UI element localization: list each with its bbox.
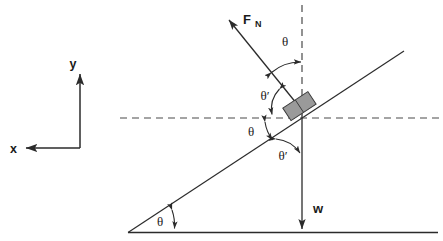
inclined-plane-surface — [128, 51, 404, 233]
angle-label-normal-horizontal: θ′ — [260, 88, 269, 103]
angle-arc-normal-horizontal — [271, 89, 279, 115]
normal-force-label: F — [243, 12, 251, 27]
angle-label-incline-ground: θ — [157, 214, 163, 229]
angle-label-incline-horizontal: θ — [248, 124, 254, 139]
angle-label-normal-vertical: θ — [282, 34, 288, 49]
normal-force-subscript: N — [255, 19, 262, 29]
angle-label-incline-weight: θ′ — [278, 148, 287, 163]
weight-label: w — [312, 201, 324, 216]
y-axis-label: y — [70, 57, 77, 71]
angle-arc-normal-vertical — [272, 62, 302, 73]
angle-arc-incline-ground — [172, 210, 175, 229]
angle-arc-incline-horizontal — [265, 122, 273, 140]
physics-diagram-canvas: y x F N w θ θ′ θ θ′ θ — [0, 0, 443, 241]
coordinate-axes — [26, 74, 80, 148]
block-on-incline — [283, 92, 316, 121]
x-axis-label: x — [10, 142, 17, 156]
